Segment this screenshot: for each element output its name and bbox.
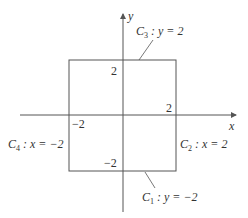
label-c4: C4 : x = −2 [8,137,64,153]
label-c3: C3 : y = 2 [136,24,183,40]
x-axis-label: x [228,119,235,133]
tick-x-2: 2 [166,101,172,115]
tick-y-2: 2 [111,64,117,78]
c1-leader-line [145,172,155,188]
square-contour-diagram: y x 2 2 −2 −2 C3 : y = 2 C4 : x = −2 C2 … [0,0,248,218]
c3-leader-line [139,40,153,60]
y-axis-label: y [127,9,134,23]
label-c2: C2 : x = 2 [180,137,227,153]
label-c1: C1 : y = −2 [142,190,198,206]
tick-x-neg2: −2 [72,117,85,131]
tick-y-neg2: −2 [104,156,117,170]
